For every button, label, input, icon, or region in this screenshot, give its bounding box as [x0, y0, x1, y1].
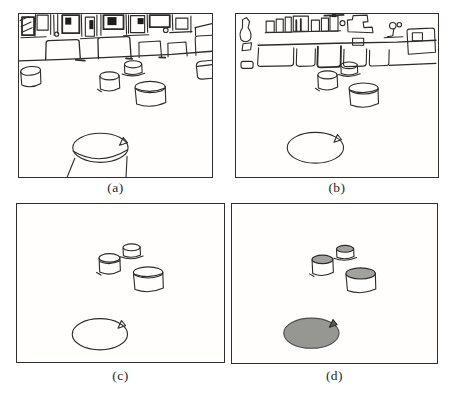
subfigure-panel-b: [235, 13, 439, 178]
small-cylinder: [315, 71, 337, 91]
subfigure-label-b: (b): [235, 180, 439, 196]
large-cylinder: [67, 133, 128, 177]
small-cylinder: [346, 268, 376, 293]
subfigure-d-sketch: [232, 204, 437, 363]
subfigure-a-sketch: [19, 14, 212, 177]
small-cylinder: [122, 61, 145, 76]
small-cylinder: [97, 254, 121, 275]
subfigure-panel-a: [18, 13, 213, 178]
small-cylinder: [20, 66, 41, 87]
small-cylinder: [349, 83, 378, 107]
small-cylinder: [97, 72, 119, 92]
triangle-notch: [120, 138, 128, 146]
subfigure-panel-d: [231, 203, 438, 364]
highlighted-ellipse: [284, 318, 339, 348]
small-cylinder: [339, 62, 361, 76]
detected-region-fill: [284, 318, 339, 348]
cylinder-cap-filled: [346, 268, 375, 279]
subfigure-label-c: (c): [16, 368, 225, 384]
large-ellipse: [287, 132, 343, 163]
cylinder-cap-filled: [337, 245, 354, 252]
small-cylinder: [310, 255, 334, 276]
subfigure-label-a: (a): [18, 180, 213, 196]
large-ellipse: [72, 319, 127, 350]
subfigure-c-sketch: [17, 204, 224, 362]
small-cylinder: [133, 267, 163, 292]
subfigure-label-d: (d): [231, 368, 438, 384]
small-cylinder: [135, 81, 166, 106]
subfigure-b-sketch: [236, 14, 438, 177]
right-object-sketch: [196, 60, 212, 79]
subfigure-panel-c: [16, 203, 225, 363]
cylinder-cap-filled: [312, 255, 333, 263]
background-clutter-sketch: [240, 14, 436, 68]
small-cylinder: [334, 245, 357, 260]
small-cylinder: [121, 244, 144, 259]
background-clutter-sketch: [19, 15, 212, 61]
